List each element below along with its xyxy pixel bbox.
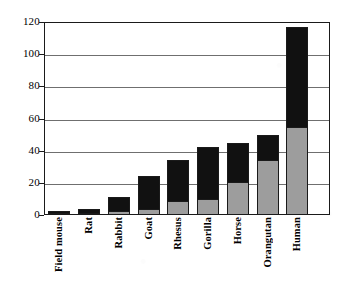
bar-field-mouse [48, 211, 70, 215]
x-label-field-mouse: Field mouse [53, 217, 67, 272]
bar-segment-lower [108, 211, 130, 215]
bar-human [286, 27, 308, 215]
bar-orangutan [257, 135, 279, 215]
x-label-rat: Rat [83, 217, 97, 234]
bar-rhesus [167, 160, 189, 215]
x-label-human: Human [291, 217, 305, 251]
bar-rabbit [108, 197, 130, 215]
bar-segment-lower [257, 160, 279, 215]
bar-segment-lower [286, 127, 308, 215]
bar-segment-lower [138, 209, 160, 215]
y-tick-mark-0 [39, 215, 44, 216]
x-label-gorilla: Gorilla [202, 217, 216, 250]
y-tick-label-100: 100 [23, 48, 40, 59]
bar-rat [78, 209, 100, 215]
x-label-horse: Horse [232, 217, 246, 244]
bar-goat [138, 176, 160, 215]
x-label-rhesus: Rhesus [172, 217, 186, 250]
bar-series-layer [44, 22, 330, 215]
bar-segment-lower [227, 182, 249, 215]
chart-figure: 020406080100120 Field mouseRatRabbitGoat… [0, 0, 358, 297]
bar-horse [227, 143, 249, 215]
y-tick-label-120: 120 [23, 16, 40, 27]
x-axis-labels: Field mouseRatRabbitGoatRhesusGorillaHor… [44, 217, 330, 295]
bar-segment-lower [167, 201, 189, 215]
x-label-rabbit: Rabbit [113, 217, 127, 249]
bar-segment-lower [48, 213, 70, 215]
bar-segment-lower [197, 199, 219, 215]
x-label-orangutan: Orangutan [262, 217, 276, 268]
x-label-goat: Goat [143, 217, 157, 240]
bar-segment-lower [78, 213, 100, 215]
bar-gorilla [197, 147, 219, 215]
